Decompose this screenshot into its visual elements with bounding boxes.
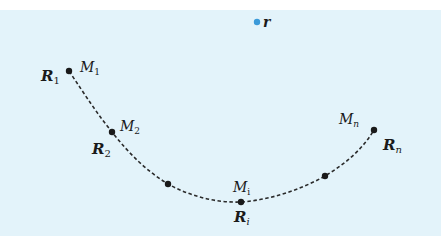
mass-point-1: R1 M1 — [40, 59, 100, 86]
position-label-r2: R2 — [91, 140, 111, 159]
mass-dot-icon — [66, 68, 72, 74]
diagram-canvas: r R1 M1 R2 M2 Mi Ri Mn Rn — [0, 0, 441, 249]
position-label-rn: Rn — [382, 136, 402, 155]
intermediate-mass-dot-icon — [165, 181, 171, 187]
observer-point-r: r — [254, 14, 272, 30]
observer-dot-icon — [254, 19, 260, 25]
intermediate-mass-dot-icon — [322, 173, 328, 179]
mass-dot-icon — [371, 127, 377, 133]
mass-label-mn: Mn — [338, 111, 359, 129]
position-label-r1: R1 — [40, 67, 60, 86]
mass-dot-icon — [109, 129, 115, 135]
dashed-curve — [69, 71, 374, 202]
mass-label-m2: M2 — [119, 118, 140, 136]
mass-label-mi: Mi — [232, 179, 250, 197]
mass-point-i: Mi Ri — [232, 179, 250, 227]
mass-point-n: Mn Rn — [338, 111, 402, 155]
position-label-ri: Ri — [233, 208, 250, 227]
mass-label-m1: M1 — [79, 59, 100, 77]
mass-distribution-diagram: r R1 M1 R2 M2 Mi Ri Mn Rn — [0, 0, 441, 249]
mass-dot-icon — [238, 199, 244, 205]
observer-label: r — [263, 14, 272, 30]
mass-point-2: R2 M2 — [91, 118, 140, 159]
